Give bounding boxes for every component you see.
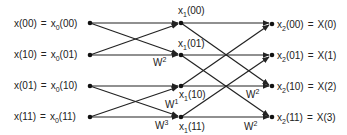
middle-label-1: x1(01) [178,38,205,51]
node-input-2 [88,84,93,89]
node-output-2 [270,84,275,89]
node-middle-3 [179,115,184,120]
weight-stage2-1: W2 [244,120,257,132]
node-middle-0 [179,21,184,26]
weight-stage1-0: W2 [153,56,166,68]
middle-label-0: x1(00) [178,5,205,18]
node-middle-1 [179,53,184,58]
output-label-2: x2(10)=X(2) [277,81,336,94]
output-label-3: x2(11)=X(3) [277,112,336,125]
fft-flow-graph: x(00)=x0(00) x(10)=x0(01) x(01)=x0(10) x… [0,0,347,135]
input-labels: x(00)=x0(00) x(10)=x0(01) x(01)=x0(10) x… [14,18,77,124]
weight-stage1-2: W3 [155,119,168,131]
output-labels: x2(00)=X(0) x2(01)=X(1) x2(10)=X(2) x2(1… [277,19,336,125]
node-input-0 [88,21,93,26]
node-input-1 [88,53,93,58]
input-label-1: x(10)=x0(01) [14,49,77,62]
middle-label-3: x1(11) [179,121,205,134]
nodes [88,21,275,120]
node-output-3 [270,115,275,120]
middle-label-2: x1(10) [179,89,206,102]
node-middle-2 [179,84,184,89]
weight-stage2-0: W2 [246,88,259,100]
output-label-0: x2(00)=X(0) [277,19,336,32]
node-output-1 [270,53,275,58]
weight-stage1-1: W1 [165,98,178,110]
node-input-3 [88,115,93,120]
output-label-1: x2(01)=X(1) [277,50,336,63]
input-label-2: x(01)=x0(10) [14,80,77,93]
node-output-0 [270,22,275,27]
input-label-0: x(00)=x0(00) [14,18,77,31]
input-label-3: x(11)=x0(11) [14,111,76,124]
